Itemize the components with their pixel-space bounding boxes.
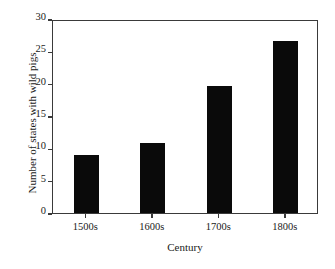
- y-tick-label: 10: [36, 141, 47, 151]
- y-axis-ticks: 051015202530: [0, 0, 52, 214]
- x-tick-label: 1800s: [272, 221, 297, 232]
- y-tick-label: 20: [36, 77, 47, 87]
- x-axis-title: Century: [52, 241, 318, 253]
- bar: [74, 155, 99, 213]
- bar: [140, 143, 165, 213]
- y-tick-label: 30: [36, 12, 47, 22]
- x-tick-mark: [284, 214, 286, 218]
- x-tick-mark: [151, 214, 153, 218]
- y-tick-label: 15: [36, 109, 47, 119]
- plot-area: [52, 20, 318, 214]
- bar: [273, 41, 298, 213]
- x-tick-mark: [85, 214, 87, 218]
- x-tick-label: 1600s: [139, 221, 164, 232]
- x-tick-label: 1500s: [73, 221, 98, 232]
- y-tick-label: 0: [41, 206, 46, 216]
- bar: [207, 86, 232, 213]
- y-tick-label: 25: [36, 44, 47, 54]
- x-tick-label: 1700s: [206, 221, 231, 232]
- bar-chart-figure: Number of states with wild pigs 05101520…: [0, 0, 335, 269]
- y-tick-label: 5: [41, 174, 46, 184]
- x-tick-mark: [218, 214, 220, 218]
